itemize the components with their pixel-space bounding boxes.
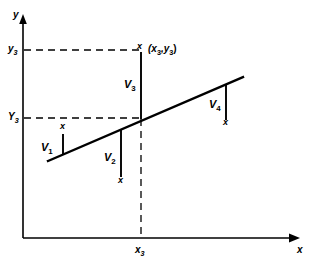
regression-residual-diagram: y x y3 Y3 x3 (x3,y3) V1 V2 V3 V4 x x x x: [0, 0, 315, 268]
x-tick-subscript: 3: [141, 249, 145, 258]
residual-v2-subscript: 2: [111, 157, 115, 166]
y-tick-observed-subscript: 3: [14, 48, 18, 57]
point-label-mid: ,y: [161, 43, 169, 54]
residual-label-v4: V4: [209, 99, 221, 113]
diagram-canvas: [0, 0, 315, 268]
y-tick-fitted-base: Y: [8, 111, 15, 122]
x-axis-arrowhead: [289, 233, 300, 242]
residual-v3-subscript: 3: [131, 84, 135, 93]
y-tick-label-observed: y3: [8, 44, 18, 56]
residual-v1-subscript: 1: [48, 147, 52, 156]
residual-label-v1: V1: [41, 142, 53, 156]
data-point-marker-4: x: [223, 118, 228, 127]
point-label-open: (x: [148, 43, 157, 54]
residual-v4-subscript: 4: [216, 104, 220, 113]
y-axis-arrowhead: [19, 14, 27, 24]
data-point-marker-1: x: [60, 122, 65, 131]
point-label-close: ): [173, 43, 176, 54]
x-tick-label: x3: [135, 245, 145, 257]
x-axis-label: x: [297, 245, 303, 255]
y-axis-label: y: [13, 10, 19, 20]
residual-label-v2: V2: [104, 152, 116, 166]
residual-label-v3: V3: [124, 79, 136, 93]
y-tick-label-fitted: Y3: [8, 112, 19, 124]
y-tick-fitted-subscript: 3: [15, 116, 19, 125]
regression-line: [48, 77, 243, 161]
residual-segments-group: [63, 52, 226, 177]
data-point-marker-3: x: [137, 42, 142, 51]
data-point-marker-2: x: [118, 176, 123, 185]
point-coordinate-label: (x3,y3): [148, 44, 177, 56]
